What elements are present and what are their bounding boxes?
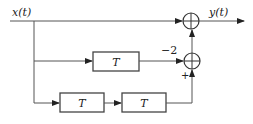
output-signal: y(t): [199, 6, 244, 21]
output-label: y(t): [208, 6, 228, 19]
input-label: x(t): [12, 6, 31, 19]
plus-sign-label: +: [181, 70, 189, 81]
gain-minus-2-label: −2: [161, 44, 177, 57]
summing-junction-middle: [184, 53, 200, 69]
delay-block-bottom-2: T: [122, 93, 166, 112]
delay-block-bottom-1: T: [60, 93, 104, 112]
block-diagram: x(t) T −2 T T + y(t): [0, 0, 253, 124]
delay-block-middle: T: [93, 52, 139, 71]
summing-junction-top: [183, 13, 199, 29]
